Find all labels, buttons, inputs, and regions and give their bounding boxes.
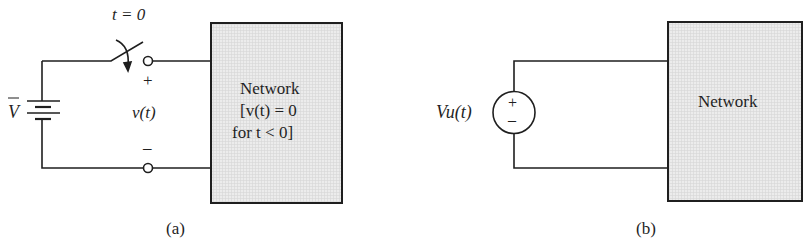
caption-b: (b) bbox=[636, 219, 656, 238]
source-minus-sign: – bbox=[507, 111, 517, 128]
panel-b bbox=[493, 22, 802, 201]
circuit-diagram: t = 0 V + v(t) – Network [v(t) = 0 for t… bbox=[0, 0, 811, 245]
caption-a: (a) bbox=[166, 219, 185, 238]
plus-sign: + bbox=[143, 71, 153, 90]
network-b-label: Network bbox=[698, 92, 758, 111]
source-label: Vu(t) bbox=[436, 102, 472, 123]
switch-arrowhead-icon bbox=[124, 62, 131, 71]
switch-time-label: t = 0 bbox=[112, 5, 146, 24]
network-a-line3: for t < 0] bbox=[232, 123, 293, 142]
terminal-bottom bbox=[144, 164, 153, 173]
minus-sign: – bbox=[142, 138, 152, 157]
wire-b-top bbox=[514, 61, 668, 92]
source-plus-sign: + bbox=[508, 94, 517, 111]
wire-left-vertical-bottom bbox=[42, 119, 143, 168]
battery-icon bbox=[27, 101, 60, 119]
battery-label: V bbox=[8, 102, 21, 122]
network-box-b bbox=[668, 22, 802, 201]
wire-b-bottom bbox=[514, 133, 668, 168]
terminal-top bbox=[144, 57, 153, 66]
voltage-label: v(t) bbox=[132, 103, 156, 122]
network-a-line2: [v(t) = 0 bbox=[240, 101, 297, 120]
network-a-line1: Network bbox=[240, 79, 300, 98]
